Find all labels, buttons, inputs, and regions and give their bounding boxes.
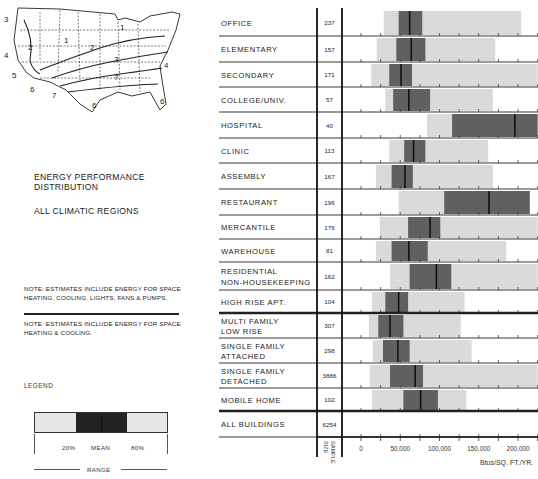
- quintile-bar: [385, 292, 408, 312]
- range-bar: [380, 217, 538, 238]
- chart-row: CLINIC113: [221, 140, 538, 163]
- row-label: ELEMENTARY: [221, 45, 278, 54]
- sample-size-value: 307: [324, 322, 335, 329]
- sample-size-value: 196: [324, 199, 335, 206]
- row-label: RESIDENTIAL: [221, 267, 277, 276]
- sample-size-value: 81: [326, 247, 333, 254]
- chart-row: ELEMENTARY157: [221, 38, 538, 62]
- chart-row: RESIDENTIALNON-HOUSEKEEPING162: [221, 264, 538, 290]
- quintile-bar: [390, 365, 423, 387]
- sample-size-value: 57: [326, 96, 333, 103]
- chart-row: ALL BUILDINGS6254: [221, 420, 538, 437]
- row-label: CLINIC: [221, 147, 250, 156]
- sample-size-value: 6254: [323, 421, 337, 428]
- quintile-bar: [444, 191, 530, 214]
- sample-size-value: 176: [324, 224, 335, 231]
- sample-size-axis-label: SIZE: [323, 441, 329, 454]
- chart-row: WAREHOUSE81: [221, 241, 538, 262]
- chart-row: ASSEMBLY167: [221, 165, 538, 189]
- x-tick-label: 200,000: [506, 445, 530, 452]
- row-label: RESTAURANT: [221, 198, 278, 207]
- chart-row: HIGH RISE APT.104: [221, 292, 538, 313]
- sample-size-value: 113: [325, 147, 335, 154]
- quintile-bar: [410, 264, 452, 289]
- chart-row: COLLEGE/UNIV.57: [221, 89, 538, 112]
- row-label: SECONDARY: [221, 71, 274, 80]
- sample-size-value: 104: [324, 298, 335, 305]
- sample-size-value: 237: [324, 19, 335, 26]
- chart-row: MOBILE HOME102: [221, 390, 538, 411]
- row-label: NON-HOUSEKEEPING: [221, 278, 311, 287]
- x-tick-label: 100,000: [428, 445, 452, 452]
- x-tick-label: 50,000: [390, 445, 410, 452]
- sample-size-value: 162: [324, 273, 335, 280]
- sample-size-value: 171: [324, 71, 335, 78]
- sample-size-value: 102: [324, 396, 335, 403]
- sample-size-value: 3886: [323, 372, 337, 379]
- sample-size-value: 40: [326, 122, 333, 129]
- chart-row: SINGLE FAMILYDETACHED3886: [221, 365, 538, 388]
- row-label: MOBILE HOME: [221, 396, 281, 405]
- sample-size-value: 157: [324, 46, 335, 53]
- sample-size-value: 167: [324, 173, 335, 180]
- range-bar: [389, 140, 488, 162]
- row-label: HIGH RISE APT.: [221, 298, 286, 307]
- chart-row: HOSPITAL40: [221, 114, 538, 138]
- row-label: MERCANTILE: [221, 223, 276, 232]
- sample-size-value: 298: [324, 347, 335, 354]
- quintile-bar: [393, 89, 430, 111]
- row-label: SINGLE FAMILY: [221, 367, 285, 376]
- range-bar: [377, 38, 496, 61]
- row-label: MULTI FAMILY: [221, 317, 279, 326]
- chart-row: SECONDARY171: [221, 64, 538, 87]
- row-label: DETACHED: [221, 377, 267, 386]
- chart-row: SINGLE FAMILYATTACHED298: [221, 340, 538, 363]
- quintile-bar: [452, 114, 538, 137]
- chart-row: RESTAURANT196: [221, 191, 538, 215]
- row-label: ALL BUILDINGS: [221, 420, 285, 429]
- row-label: OFFICE: [221, 19, 252, 28]
- row-label: LOW RISE: [221, 327, 263, 336]
- quintile-bar: [408, 217, 440, 238]
- chart-row: MULTI FAMILYLOW RISE307: [221, 315, 538, 338]
- row-label: HOSPITAL: [221, 121, 263, 130]
- chart-row: OFFICE237: [221, 11, 538, 36]
- sample-size-axis-label: SAMPLE: [330, 441, 336, 464]
- row-label: COLLEGE/UNIV.: [221, 96, 286, 105]
- row-label: SINGLE FAMILY: [221, 342, 285, 351]
- quintile-bar: [383, 340, 410, 362]
- quintile-bar: [404, 140, 425, 162]
- quintile-bar: [392, 165, 413, 188]
- chart-row: MERCANTILE176: [221, 217, 538, 239]
- energy-distribution-chart: OFFICE237ELEMENTARY157SECONDARY171COLLEG…: [0, 0, 538, 479]
- x-tick-label: 150,000: [467, 445, 491, 452]
- row-label: WAREHOUSE: [221, 247, 276, 256]
- x-axis-title: Btus/SQ. FT./YR.: [480, 459, 533, 467]
- row-label: ATTACHED: [221, 352, 266, 361]
- row-label: ASSEMBLY: [221, 172, 266, 181]
- x-tick-label: 0: [359, 445, 363, 452]
